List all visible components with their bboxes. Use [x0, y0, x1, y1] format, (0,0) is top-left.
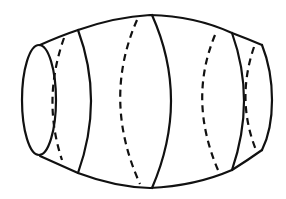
barrel-diagram	[0, 0, 286, 199]
section-arc-1	[78, 30, 91, 173]
barrel-right-end	[262, 45, 272, 150]
barrel-top-outline	[40, 15, 262, 45]
barrel-bottom-outline	[40, 150, 262, 188]
hidden-arc-3	[202, 35, 218, 170]
hidden-arc-2	[120, 20, 140, 184]
hidden-arc-1	[52, 38, 64, 160]
section-arc-3	[232, 33, 244, 170]
barrel-left-end-ellipse	[22, 45, 56, 155]
section-arc-2	[152, 15, 171, 188]
barrel-drawing	[0, 0, 286, 199]
hidden-arc-4	[245, 47, 256, 150]
